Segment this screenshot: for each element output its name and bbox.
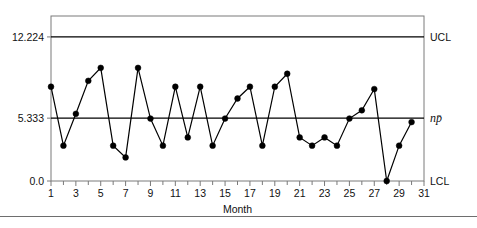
data-point-marker — [73, 111, 79, 117]
x-tick-label: 31 — [418, 187, 430, 199]
data-point-marker — [98, 65, 104, 71]
data-point-marker — [247, 84, 253, 90]
data-point-marker — [284, 71, 290, 77]
x-tick-label: 15 — [219, 187, 231, 199]
x-tick-label: 17 — [244, 187, 256, 199]
x-tick-label: 7 — [123, 187, 129, 199]
data-point-marker — [259, 143, 265, 149]
data-point-marker — [123, 155, 129, 161]
data-point-marker — [148, 116, 154, 122]
x-tick-label: 25 — [344, 187, 356, 199]
y-tick-label: 12.224 — [12, 31, 44, 43]
data-point-marker — [185, 134, 191, 140]
limit-label-lcl: LCL — [430, 175, 449, 187]
data-point-marker — [409, 119, 415, 125]
x-tick-label: 1 — [48, 187, 54, 199]
data-point-marker — [48, 84, 54, 90]
x-tick-label: 9 — [148, 187, 154, 199]
data-point-marker — [85, 78, 91, 84]
np-control-chart: UCLnp̄LCL0.05.33312.22413579111315171921… — [0, 0, 477, 228]
data-point-marker — [172, 84, 178, 90]
y-tick-label: 0.0 — [29, 175, 44, 187]
x-tick-label: 19 — [269, 187, 281, 199]
data-point-marker — [135, 65, 141, 71]
x-tick-label: 11 — [170, 187, 181, 199]
data-point-marker — [396, 143, 402, 149]
x-tick-label: 3 — [73, 187, 79, 199]
figure-footer-rule — [0, 216, 477, 217]
data-point-marker — [272, 84, 278, 90]
limit-label-ucl: UCL — [430, 31, 451, 43]
x-tick-label: 21 — [294, 187, 306, 199]
data-point-marker — [384, 178, 390, 184]
x-tick-label: 23 — [319, 187, 331, 199]
x-tick-label: 13 — [194, 187, 206, 199]
data-point-marker — [322, 134, 328, 140]
data-point-marker — [110, 143, 116, 149]
data-point-marker — [297, 134, 303, 140]
data-point-marker — [160, 143, 166, 149]
control-chart-figure: UCLnp̄LCL0.05.33312.22413579111315171921… — [0, 0, 477, 228]
data-point-marker — [61, 143, 67, 149]
y-tick-label: 5.333 — [18, 112, 44, 124]
data-point-marker — [309, 143, 315, 149]
data-point-marker — [235, 96, 241, 102]
x-axis-title: Month — [223, 203, 252, 215]
x-tick-label: 5 — [98, 187, 104, 199]
data-point-marker — [334, 143, 340, 149]
x-tick-label: 27 — [368, 187, 380, 199]
limit-label-center: np̄ — [430, 111, 442, 125]
data-point-marker — [210, 143, 216, 149]
data-point-marker — [347, 116, 353, 122]
data-point-marker — [222, 116, 228, 122]
data-point-marker — [197, 84, 203, 90]
data-point-marker — [359, 107, 365, 113]
data-point-marker — [371, 86, 377, 92]
x-tick-label: 29 — [393, 187, 405, 199]
